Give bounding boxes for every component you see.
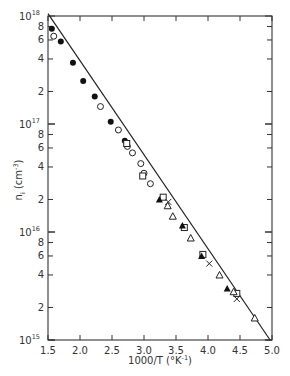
semiconductor-intrinsic-carrier-chart: 2468246824681018101710161015 1.52.02.53.…: [0, 0, 290, 376]
y-tick-label: 2: [38, 194, 44, 205]
data-point-open-triangle: [187, 234, 194, 241]
data-point-filled-circle: [70, 60, 76, 66]
y-tick-label: 2: [38, 302, 44, 313]
data-point-open-triangle: [216, 271, 223, 278]
y-tick-label: 6: [38, 250, 44, 261]
x-tick-label: 4.0: [200, 345, 216, 356]
data-point-cross: [206, 261, 212, 267]
data-point-open-triangle: [169, 213, 176, 220]
data-point-filled-circle: [49, 26, 55, 32]
y-tick-label: 6: [38, 34, 44, 45]
data-point-open-square: [140, 173, 146, 179]
y-tick-label: 2: [38, 86, 44, 97]
y-tick-label: 4: [38, 53, 44, 64]
data-point-open-circle: [97, 104, 103, 110]
data-point-open-circle: [51, 33, 57, 39]
y-tick-label: 4: [38, 269, 44, 280]
x-tick-label: 4.5: [232, 345, 248, 356]
data-point-filled-circle: [58, 39, 64, 45]
y-tick-label: 8: [38, 237, 44, 248]
y-tick-label: 8: [38, 21, 44, 32]
x-axis-ticks: 1.52.02.53.03.54.04.55.0: [40, 16, 280, 356]
data-point-open-circle: [115, 127, 121, 133]
x-tick-label: 5.0: [264, 345, 280, 356]
data-point-open-circle: [129, 150, 135, 156]
y-axis-title: ni (cm-3): [12, 159, 27, 200]
data-point-open-square: [124, 140, 130, 146]
data-point-filled-circle: [80, 78, 86, 84]
y-tick-label-major: 1015: [19, 333, 40, 346]
data-point-filled-circle: [108, 119, 114, 125]
data-point-filled-circle: [92, 93, 98, 99]
data-point-filled-triangle: [224, 285, 231, 292]
x-axis-title: 1000/T (°K-1): [128, 354, 192, 366]
data-point-open-triangle: [251, 314, 258, 321]
y-tick-label: 6: [38, 142, 44, 153]
y-tick-label: 4: [38, 161, 44, 172]
x-tick-label: 2.5: [104, 345, 120, 356]
y-tick-label: 8: [38, 129, 44, 140]
data-point-open-circle: [147, 181, 153, 187]
x-tick-label: 2.0: [72, 345, 88, 356]
x-tick-label: 1.5: [40, 345, 56, 356]
data-point-open-circle: [138, 161, 144, 167]
